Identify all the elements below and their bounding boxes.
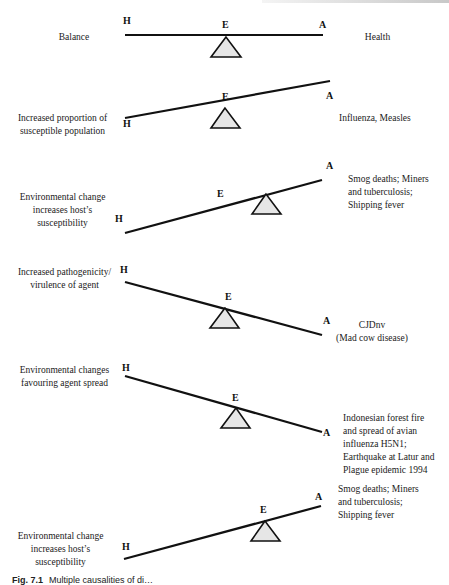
host-node-label: H xyxy=(115,213,123,224)
label-line: Increased proportion of xyxy=(10,112,115,125)
agent-node-label: A xyxy=(319,19,327,30)
condition-label-agent-spread: Environmental changes favouring agent sp… xyxy=(12,364,117,390)
host-node-label: H xyxy=(122,541,130,552)
panel-agent-virulence: H E A xyxy=(120,264,331,335)
condition-label-host-susceptibility-2: Environmental change increases host’s su… xyxy=(8,530,113,569)
label-line: Smog deaths; Miners xyxy=(348,173,429,186)
fulcrum-triangle-icon xyxy=(211,37,241,57)
label-line: favouring agent spread xyxy=(12,377,117,390)
label-line: Environmental change xyxy=(8,530,113,543)
label-line: increases host’s xyxy=(10,204,115,217)
label-line: Earthquake at Latur and xyxy=(343,451,435,464)
environment-node-label: E xyxy=(217,188,224,199)
label-line: increases host’s xyxy=(8,543,113,556)
label-line: influenza H5N1; xyxy=(343,438,435,451)
label-line: Smog deaths; Miners xyxy=(338,483,419,496)
label-line: CJDnv xyxy=(332,319,412,332)
environment-node-label: E xyxy=(222,19,229,30)
label-line: Shipping fever xyxy=(348,199,429,212)
seesaw-beam xyxy=(124,506,321,559)
figure-caption: Fig. 7.1Multiple causalities of di… xyxy=(12,575,153,585)
label-line: Health xyxy=(350,31,405,44)
label-line: susceptibility xyxy=(8,556,113,569)
label-line: and spread of avian xyxy=(343,425,435,438)
label-line: and tuberculosis; xyxy=(338,496,419,509)
figure-caption-text: Multiple causalities of di… xyxy=(49,575,153,585)
outcome-label-balance: Health xyxy=(350,31,405,44)
environment-node-label: E xyxy=(232,392,239,403)
panel-agent-spread: H E A xyxy=(122,362,331,438)
label-line: Plague epidemic 1994 xyxy=(343,464,435,477)
host-node-label: H xyxy=(123,15,131,26)
environment-node-label: E xyxy=(225,291,232,302)
label-line: Environmental change xyxy=(10,191,115,204)
environment-node-label: E xyxy=(260,504,267,515)
outcome-label-susceptible-population: Influenza, Measles xyxy=(339,112,411,125)
panel-host-susceptibility-2: H E A xyxy=(122,491,323,559)
environment-node-label: E xyxy=(222,91,229,102)
outcome-label-agent-virulence: CJDnv (Mad cow disease) xyxy=(332,319,412,345)
label-line: (Mad cow disease) xyxy=(332,332,412,345)
host-node-label: H xyxy=(122,362,130,373)
panel-susceptible-population: H E A xyxy=(123,81,334,129)
panel-host-susceptibility-1: H E A xyxy=(115,160,334,233)
condition-label-susceptible-population: Increased proportion of susceptible popu… xyxy=(10,112,115,138)
label-line: Indonesian forest fire xyxy=(343,412,435,425)
host-node-label: H xyxy=(123,118,131,129)
panel-balance: H E A xyxy=(123,15,327,57)
label-line: susceptible population xyxy=(10,125,115,138)
label-line: virulence of agent xyxy=(12,279,117,292)
host-node-label: H xyxy=(120,264,128,275)
label-line: Shipping fever xyxy=(338,509,419,522)
figure-number: Fig. 7.1 xyxy=(12,575,43,585)
label-line: and tuberculosis; xyxy=(348,186,429,199)
outcome-label-host-susceptibility-1: Smog deaths; Miners and tuberculosis; Sh… xyxy=(348,173,429,212)
agent-node-label: A xyxy=(315,491,323,502)
fulcrum-triangle-icon xyxy=(211,108,240,128)
agent-node-label: A xyxy=(326,160,334,171)
outcome-label-agent-spread: Indonesian forest fire and spread of avi… xyxy=(343,412,435,477)
label-line: Balance xyxy=(34,31,114,44)
outcome-label-host-susceptibility-2: Smog deaths; Miners and tuberculosis; Sh… xyxy=(338,483,419,522)
label-line: Increased pathogenicity/ xyxy=(12,266,117,279)
label-line: Influenza, Measles xyxy=(339,112,411,125)
label-line: Environmental changes xyxy=(12,364,117,377)
label-line: susceptibility xyxy=(10,217,115,230)
agent-node-label: A xyxy=(326,90,334,101)
condition-label-balance: Balance xyxy=(34,31,114,44)
condition-label-agent-virulence: Increased pathogenicity/ virulence of ag… xyxy=(12,266,117,292)
agent-node-label: A xyxy=(323,427,331,438)
condition-label-host-susceptibility-1: Environmental change increases host’s su… xyxy=(10,191,115,230)
agent-node-label: A xyxy=(323,315,331,326)
